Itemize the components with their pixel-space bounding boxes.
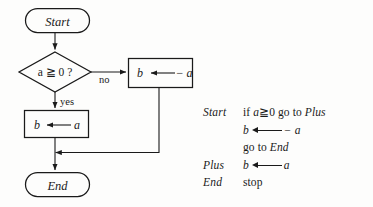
assign-arrow-icon bbox=[252, 126, 282, 134]
code-label-start: Start bbox=[203, 104, 243, 122]
end-terminator-label: End bbox=[46, 179, 68, 193]
assign-box-operand-left: b bbox=[34, 118, 40, 132]
code-line-plus: Plus ba bbox=[203, 157, 373, 175]
code-statement-negate: b− a bbox=[243, 122, 301, 140]
code-statement-end: stop bbox=[243, 174, 263, 192]
code-statement-plus: ba bbox=[243, 157, 290, 175]
decision-label: a ≧ 0 ? bbox=[38, 66, 73, 78]
negate-box-operand-left: b bbox=[137, 66, 143, 80]
code-line-negate: b− a bbox=[203, 122, 373, 140]
code-label-end: End bbox=[203, 174, 243, 192]
pseudocode-listing: Start if a≧0 go to Plus b− a go to End P… bbox=[203, 104, 373, 192]
code-line-goto-end: go to End bbox=[203, 139, 373, 157]
start-terminator-label: Start bbox=[45, 15, 70, 29]
negate-box-operand-right: − a bbox=[175, 66, 192, 80]
code-line-start: Start if a≧0 go to Plus bbox=[203, 104, 373, 122]
edge-label-yes: yes bbox=[60, 96, 74, 107]
code-line-end: End stop bbox=[203, 174, 373, 192]
code-statement-goto-end: go to End bbox=[243, 139, 289, 157]
code-statement-start: if a≧0 go to Plus bbox=[243, 104, 326, 122]
figure-canvas: Start a ≧ 0 ? End no yes b − a b a Start… bbox=[0, 0, 373, 207]
assign-arrow-icon bbox=[252, 161, 282, 169]
edge-label-no: no bbox=[99, 74, 110, 85]
code-label-plus: Plus bbox=[203, 157, 243, 175]
assign-box-operand-right: a bbox=[74, 118, 80, 132]
